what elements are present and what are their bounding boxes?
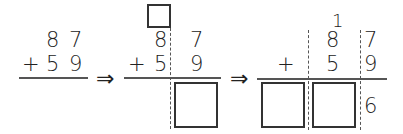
p3-ones-result: 6	[364, 96, 377, 117]
p1-top-ones: 7	[69, 30, 82, 51]
p3-plus-sign: +	[277, 54, 295, 75]
p2-carry-box	[147, 4, 171, 28]
p2-top-ones: 7	[190, 30, 203, 51]
p1-plus-sign: +	[22, 54, 40, 75]
p2-bottom-tens: 5	[154, 54, 167, 75]
p3-sum-line	[257, 78, 387, 80]
arrow-right-icon: ⇒	[96, 68, 114, 90]
p3-top-tens: 8	[326, 30, 339, 51]
p2-answer-box	[174, 82, 218, 128]
p3-answer-box-tens	[312, 82, 356, 128]
arrow-right-icon: ⇒	[230, 68, 248, 90]
p1-sum-line	[19, 77, 88, 79]
p3-bottom-ones: 9	[364, 54, 377, 75]
p3-bottom-tens: 5	[326, 54, 339, 75]
p2-plus-sign: +	[128, 54, 146, 75]
p1-bottom-tens: 5	[46, 54, 59, 75]
p2-top-tens: 8	[154, 30, 167, 51]
p2-sum-line	[124, 77, 221, 79]
p3-answer-box-hundreds	[261, 82, 305, 128]
p3-top-ones: 7	[364, 30, 377, 51]
p2-bottom-ones: 9	[190, 54, 203, 75]
p1-top-tens: 8	[46, 30, 59, 51]
p3-divider-right	[360, 30, 361, 130]
p2-column-divider	[170, 28, 171, 129]
p1-bottom-ones: 9	[69, 54, 82, 75]
p3-divider-left	[308, 30, 309, 130]
